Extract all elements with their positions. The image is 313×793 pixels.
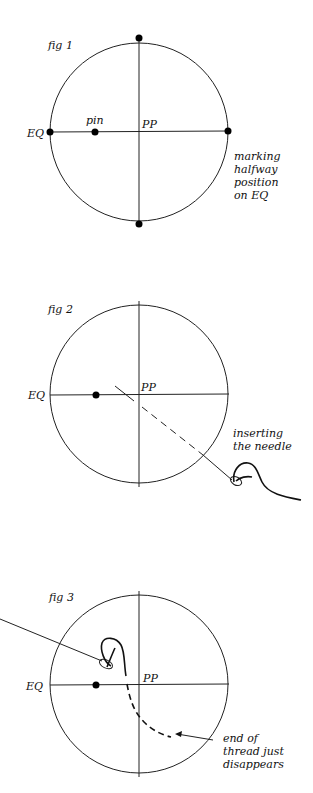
figure-3-needle-eye bbox=[98, 657, 114, 670]
figure-2-caption-line-2: the needle bbox=[233, 440, 292, 453]
figure-1-caption-line-3: position bbox=[234, 176, 278, 189]
figure-3-thread-inner bbox=[107, 648, 115, 667]
figure-1-caption-line-4: on EQ bbox=[234, 189, 268, 202]
figure-1-caption-line-2: halfway bbox=[234, 163, 278, 176]
figure-3-caption-line-2: thread just bbox=[223, 745, 285, 758]
figure-1-title: fig 1 bbox=[47, 39, 73, 52]
figure-2-pp-label: PP bbox=[140, 381, 156, 394]
figure-2: fig 2 PP EQ inserting the needle bbox=[27, 301, 301, 500]
figure-2-title: fig 2 bbox=[47, 303, 73, 316]
figure-3-arrow-head-icon bbox=[175, 731, 182, 737]
figure-2-equator-line bbox=[50, 394, 229, 395]
figure-1-caption-line-1: marking bbox=[234, 150, 281, 163]
figure-3: fig 3 PP EQ end of thread just disappear… bbox=[0, 591, 285, 777]
figure-1: fig 1 pin PP EQ marking halfway position… bbox=[26, 35, 281, 228]
figure-3-caption-line-3: disappears bbox=[223, 758, 284, 771]
figure-3-needle bbox=[0, 619, 102, 661]
figure-3-eq-label: EQ bbox=[25, 680, 43, 693]
figure-3-equator-line bbox=[50, 684, 229, 685]
figure-3-pp-label: PP bbox=[142, 672, 158, 685]
figure-2-needle bbox=[115, 386, 134, 401]
figure-3-thread-loop bbox=[101, 638, 126, 676]
figure-1-pin bbox=[92, 129, 99, 136]
figure-2-thread-visible bbox=[203, 455, 232, 480]
figure-3-arrow-line bbox=[177, 734, 213, 740]
figure-1-left-mark bbox=[47, 129, 54, 136]
figure-2-thread-tail bbox=[234, 463, 301, 500]
figure-1-pin-label: pin bbox=[86, 114, 104, 127]
figure-2-caption-line-1: inserting bbox=[233, 427, 283, 440]
diagram-canvas: fig 1 pin PP EQ marking halfway position… bbox=[0, 0, 313, 793]
figure-3-pin bbox=[93, 682, 100, 689]
figure-3-caption-line-1: end of bbox=[223, 732, 260, 745]
figure-3-thread-hidden bbox=[127, 684, 171, 737]
figure-1-eq-label: EQ bbox=[26, 127, 44, 140]
figure-3-title: fig 3 bbox=[48, 591, 74, 604]
figure-2-pin bbox=[93, 392, 100, 399]
figure-1-pp-label: PP bbox=[141, 118, 157, 131]
figure-2-eq-label: EQ bbox=[27, 389, 45, 402]
figure-1-bottom-mark bbox=[136, 221, 143, 228]
figure-1-right-mark bbox=[225, 128, 232, 135]
figure-2-thread-hidden bbox=[142, 407, 203, 455]
figure-1-top-mark bbox=[136, 35, 143, 42]
figure-1-equator-line bbox=[50, 131, 228, 132]
